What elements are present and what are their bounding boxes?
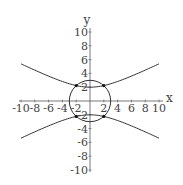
tick-labels: -10-8-6-4-2246810-10-8-6-4-2246810xy — [12, 13, 173, 177]
x-tick-label: -8 — [29, 102, 40, 115]
y-tick-label: -8 — [77, 150, 88, 163]
x-tick-label: 10 — [152, 102, 166, 115]
x-tick-label: -10 — [12, 102, 30, 115]
y-tick-label: 8 — [81, 40, 88, 53]
y-tick-label: -6 — [77, 136, 88, 149]
intersection-point — [75, 84, 78, 87]
intersection-point — [102, 115, 105, 118]
x-tick-label: -6 — [43, 102, 54, 115]
x-tick-label: 8 — [142, 102, 149, 115]
x-tick-label: 2 — [100, 102, 107, 115]
y-axis-label: y — [83, 13, 91, 27]
axes — [19, 28, 163, 172]
chart-plot: -10-8-6-4-2246810-10-8-6-4-2246810xy — [0, 0, 183, 185]
y-tick-label: -4 — [77, 123, 88, 136]
y-tick-label: -2 — [77, 109, 88, 122]
y-tick-label: -10 — [70, 164, 88, 177]
y-tick-label: 10 — [74, 26, 88, 39]
y-tick-label: 2 — [81, 81, 88, 94]
x-axis-label: x — [166, 91, 173, 105]
x-tick-label: -4 — [57, 102, 68, 115]
y-tick-label: 4 — [81, 67, 88, 80]
y-tick-label: 6 — [81, 54, 88, 67]
x-tick-label: 4 — [114, 102, 121, 115]
intersection-point — [102, 84, 105, 87]
x-tick-label: 6 — [128, 102, 135, 115]
